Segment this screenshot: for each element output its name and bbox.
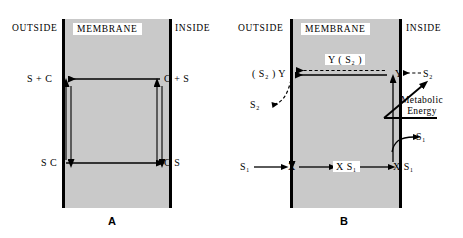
panel-a-bottom-left-label: S C [41,157,57,168]
panel-a-title: A [108,215,116,227]
panel-b-right-substrate-1-label: S₁ [416,131,426,142]
metabolic-energy-line-2: Energy [390,106,454,117]
panel-a-top-left-label: S + C [27,73,52,84]
panel-b-carrier-complex-top-label: Y ( S₂ ) [325,54,365,65]
s1-out-arrow-b [392,137,414,152]
panel-b-right-substrate-2-label: S₂ [423,68,433,79]
s2-out-arrow-b [272,80,291,105]
panel-b-metabolic-energy-label: Metabolic Energy [390,95,454,117]
panel-b-left-substrate-1-label: S₁ [240,161,250,172]
panel-a-bottom-right-label: C S [164,157,180,168]
panel-b-carrier-x-label: X [288,161,296,172]
panel-b-right-carrier-label: Y [395,68,403,79]
panel-a-arrows [0,0,232,238]
panel-a-top-right-label: C + S [164,73,189,84]
panel-b-left-substrate-2-label: S₂ [250,99,260,110]
panel-a: OUTSIDE MEMBRANE INSIDE S + C C + S S C … [0,0,232,238]
panel-b: OUTSIDE MEMBRANE INSIDE [232,0,463,238]
metabolic-energy-line-1: Metabolic [390,95,454,106]
panel-b-complex-right-label: X S₁ [393,161,414,172]
panel-b-left-carrier-label: ( S₂ ) Y [252,68,286,79]
panel-b-complex-mid-label: X S₁ [333,161,360,172]
panel-b-arrows [232,0,463,238]
panel-b-title: B [340,215,348,227]
